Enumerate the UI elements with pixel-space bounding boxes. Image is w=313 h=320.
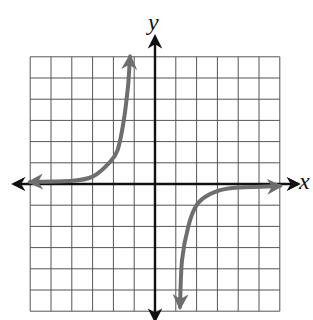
function-graph [0,0,313,320]
curve-branch-lower-right [180,186,280,307]
y-axis-label: y [148,10,159,34]
x-axis-label: x [299,169,310,193]
